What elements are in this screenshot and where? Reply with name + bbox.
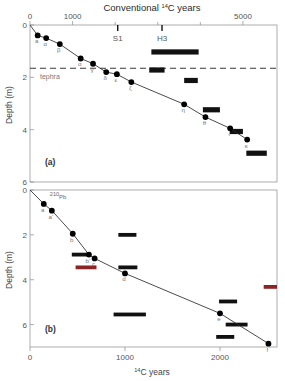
panel-a-age-depth-curve xyxy=(30,25,247,140)
panel-b-ytick-label: 2 xyxy=(23,231,28,240)
panel-b-label: (b) xyxy=(45,324,56,334)
panel-a-point-label: η xyxy=(181,106,185,113)
panel-b-ytick-label: 0 xyxy=(23,186,28,195)
panel-b-point-label: a' xyxy=(49,213,54,220)
panel-b-age-depth-curve xyxy=(30,190,269,344)
panel-a-point-label: ε xyxy=(114,76,117,83)
panel-b-ytick-label: 6 xyxy=(23,321,28,330)
panel-a-ytick-label: 4 xyxy=(23,126,28,135)
panel-a-point-label: α xyxy=(78,60,82,67)
bottom-axis-title: 14C years xyxy=(134,367,170,377)
figure-container: 0100050000246Conventional 14C yearsS1H3t… xyxy=(0,0,285,381)
panel-b-range-bar xyxy=(118,233,136,237)
panel-b-point-label: f xyxy=(267,346,269,353)
panel-b-range-bar xyxy=(118,265,137,269)
panel-a-range-bar xyxy=(246,151,266,156)
panel-a-point-label: ζ xyxy=(129,84,132,92)
panel-a-y-axis-title: Depth (m) xyxy=(4,86,14,124)
panel-b-range-bar xyxy=(216,335,234,339)
panel-a-xtick-label: 0 xyxy=(28,12,33,21)
panel-a-label: (a) xyxy=(45,157,56,167)
pb210-label: 210Pb xyxy=(50,191,67,200)
tephra-marker-label-h3: H3 xyxy=(157,34,168,43)
panel-a-xtick-label: 1000 xyxy=(64,12,82,21)
panel-a-ytick-label: 2 xyxy=(23,73,28,82)
panel-a-point-label: a xyxy=(35,37,39,44)
panel-b-red-range-bar xyxy=(264,285,277,289)
panel-b-xtick-label: 0 xyxy=(28,353,33,362)
panel-a-range-bar xyxy=(184,78,198,83)
panel-a-frame xyxy=(30,25,277,182)
panel-a-point-label: α xyxy=(43,40,47,47)
panel-a-xtick-label: 5000 xyxy=(234,12,252,21)
tephra-marker-label-s1: S1 xyxy=(113,34,123,43)
panel-b-ytick-label: 4 xyxy=(23,276,28,285)
panel-b-point-label: b xyxy=(70,236,74,243)
panel-a-range-bar xyxy=(151,49,198,54)
panel-a-point-label: γ xyxy=(90,66,94,73)
panel-a-range-bar xyxy=(149,67,164,72)
panel-b-range-bar xyxy=(219,300,237,304)
panel-b-point-label: c xyxy=(92,260,95,267)
top-axis-title: Conventional 14C years xyxy=(103,2,200,13)
panel-a-range-bar xyxy=(203,107,220,112)
panel-b-point-label: a xyxy=(41,206,45,213)
panel-b-point-label: e xyxy=(217,315,221,322)
panel-b-point-label: d xyxy=(122,275,126,282)
panel-b-point-label: b' xyxy=(86,257,91,264)
panel-b-range-bar xyxy=(226,323,248,327)
two-panel-depth-age-chart: 0100050000246Conventional 14C yearsS1H3t… xyxy=(0,0,285,381)
panel-b-y-axis-title: Depth (m) xyxy=(4,251,14,289)
panel-a-point-label: δ xyxy=(104,74,108,81)
panel-a-point-label: θ xyxy=(203,119,207,126)
panel-b-xtick-label: 1000 xyxy=(116,353,134,362)
panel-a-ytick-label: 0 xyxy=(23,21,28,30)
panel-b-xtick-label: 2000 xyxy=(211,353,229,362)
panel-a-point-label: β xyxy=(57,46,61,53)
panel-a-point-label: κ xyxy=(245,142,249,149)
tephra-label: tephra xyxy=(40,73,60,81)
panel-b-range-bar xyxy=(114,313,146,317)
